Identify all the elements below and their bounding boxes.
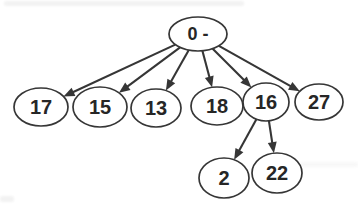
edge-line (202, 51, 209, 79)
edge-line (239, 119, 257, 152)
node-label: 27 (308, 91, 330, 113)
node-label: 18 (206, 95, 228, 117)
edge-line (213, 49, 245, 81)
node-label: 0 - (187, 24, 208, 44)
tree-diagram: 0 -171513181627222 (0, 0, 358, 206)
node-label: 22 (266, 162, 288, 184)
arrowhead-icon (268, 142, 277, 154)
edge-line (170, 50, 189, 83)
tree-node-18: 18 (191, 87, 243, 125)
node-label: 2 (218, 167, 229, 189)
node-label: 17 (30, 96, 52, 118)
arrowhead-icon (64, 88, 76, 97)
tree-node-root: 0 - (169, 17, 227, 51)
edge-16-2 (234, 119, 256, 159)
tree-node-16: 16 (243, 83, 289, 121)
arrowhead-icon (205, 76, 214, 88)
tree-node-22: 22 (252, 153, 302, 193)
arrowhead-icon (119, 83, 131, 93)
node-label: 15 (89, 96, 111, 118)
node-label: 16 (255, 91, 277, 113)
tree-node-27: 27 (295, 84, 343, 120)
edge-16-22 (268, 121, 277, 153)
node-label: 13 (145, 97, 167, 119)
tree-node-2: 2 (199, 158, 249, 198)
edge-line (269, 121, 273, 145)
edge-root-18 (202, 51, 213, 88)
tree-node-17: 17 (14, 88, 68, 126)
tree-node-15: 15 (73, 87, 127, 127)
edge-root-16 (213, 49, 252, 88)
diagram-canvas: 0 -171513181627222 (0, 0, 358, 206)
tree-node-13: 13 (131, 89, 181, 127)
